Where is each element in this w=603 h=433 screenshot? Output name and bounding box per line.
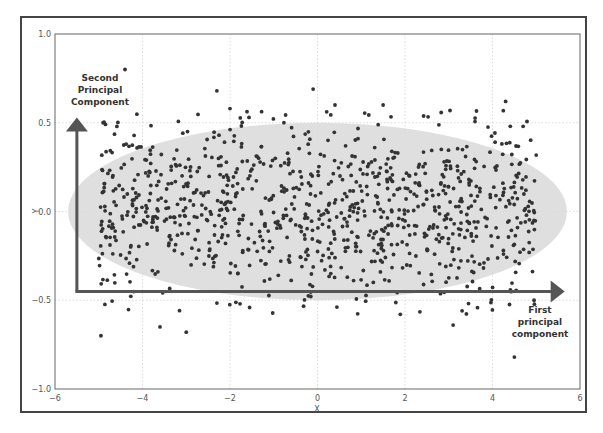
y-axis-label: Y xyxy=(32,208,41,214)
x-axis-ticks: −6−4−20246 xyxy=(49,394,582,403)
annotation-line: Component xyxy=(71,97,130,107)
x-tick-label: −2 xyxy=(224,394,236,403)
x-tick-label: 4 xyxy=(490,394,495,403)
annotation-line: Principal xyxy=(78,85,123,95)
annotation-line: component xyxy=(512,329,569,339)
x-tick-label: 6 xyxy=(577,394,582,403)
annotation-line: Second xyxy=(82,73,119,83)
x-tick-label: 2 xyxy=(402,394,407,403)
annotation-second-principal-component: Second Principal Component xyxy=(71,73,130,107)
y-tick-label: 0.5 xyxy=(38,119,51,128)
scatter-chart: −6−4−20246 1.00.50.0−0.5−1.0 X Y Second … xyxy=(0,0,603,433)
y-tick-label: −1.0 xyxy=(32,385,51,394)
x-tick-label: 0 xyxy=(315,394,320,403)
y-tick-label: −0.5 xyxy=(32,296,51,305)
x-tick-label: −6 xyxy=(49,394,61,403)
x-axis-label: X xyxy=(314,405,320,414)
arrowhead-right-icon xyxy=(551,280,565,302)
x-tick-label: −4 xyxy=(137,394,149,403)
annotation-line: First xyxy=(528,305,552,315)
annotation-line: principal xyxy=(518,317,562,327)
annotation-first-principal-component: First principal component xyxy=(512,305,569,339)
y-tick-label: 1.0 xyxy=(38,30,51,39)
arrowhead-up-icon xyxy=(66,117,88,131)
